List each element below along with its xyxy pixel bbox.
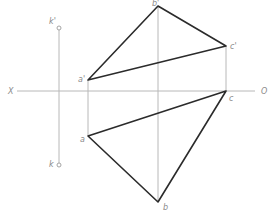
label-b: b — [163, 203, 168, 212]
label-k-prime: k' — [49, 17, 56, 26]
projection-diagram: X O k' k a' b' c' a b c — [0, 0, 277, 216]
axis-label-o: O — [261, 87, 267, 96]
label-k: k — [49, 160, 54, 169]
label-c: c — [229, 94, 234, 103]
label-a-prime: a' — [78, 75, 85, 84]
label-b-prime: b' — [152, 0, 159, 8]
triangle-top-view — [88, 91, 226, 202]
label-c-prime: c' — [230, 42, 237, 51]
triangle-frontal-view — [88, 6, 226, 80]
axis-label-x: X — [7, 87, 14, 96]
point-k-marker — [57, 163, 61, 167]
label-a: a — [80, 135, 85, 144]
point-k-prime-marker — [57, 26, 61, 30]
